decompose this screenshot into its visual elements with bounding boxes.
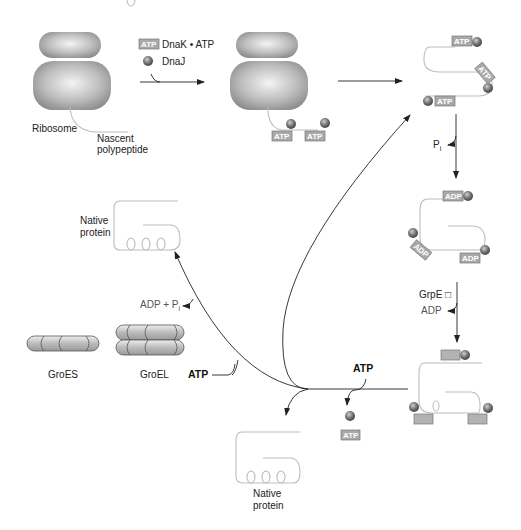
groes-label: GroES (48, 369, 78, 380)
ribosome-label: Ribosome (32, 123, 77, 134)
polypeptide-dnak-atp-complex: ATP ATP ATP (423, 36, 495, 106)
svg-text:ATP: ATP (437, 97, 453, 106)
legend-dnaj-label: DnaJ (162, 56, 185, 67)
atp-right-label: ATP (353, 362, 373, 374)
released-dnaj-sphere (345, 411, 355, 421)
arrow-step1-branch (151, 74, 160, 82)
svg-text:ATP: ATP (343, 431, 359, 440)
svg-text:ADP: ADP (462, 254, 480, 263)
polypeptide-dnak-free-complex (409, 350, 493, 424)
svg-text:ADP: ADP (445, 192, 463, 201)
native-bottom-label-line2: protein (253, 500, 284, 511)
groes-icon (27, 336, 99, 351)
dnak-dnaj-chaperone-pathway-diagram: Ribosome Nascent polypeptide ATP DnaK • … (0, 0, 521, 530)
atp-groel-label: ATP (188, 368, 208, 380)
native-bottom-label-line1: Native (253, 488, 282, 499)
legend-atp-tag: ATP (139, 39, 159, 49)
native-protein-top (114, 0, 180, 250)
nascent-label-line2: polypeptide (97, 144, 149, 155)
nascent-label-line1: Nascent (97, 133, 134, 144)
svg-text:ATP: ATP (454, 37, 470, 46)
released-atp-tag: ATP (341, 430, 360, 440)
arrow-atp-exchange (347, 379, 366, 405)
native-protein-bottom (236, 432, 300, 483)
arrow-rebind-dnak (283, 115, 410, 389)
legend-dnaj-sphere-icon (143, 56, 153, 66)
nascent-polypeptide-strand (70, 108, 128, 132)
groel-icon (116, 325, 184, 355)
native-top-label-line1: Native (80, 215, 109, 226)
grpe-label: GrpE □ (419, 289, 451, 300)
arrow-adp-release (448, 303, 457, 311)
atp-groel-connector (212, 364, 235, 375)
groel-label: GroEL (140, 369, 169, 380)
pi-label: Pi (433, 139, 442, 152)
adp-pi-label: ADP + Pi (140, 299, 180, 312)
polypeptide-dnak-adp-complex: ADP ADP ADP (408, 191, 490, 263)
ribosome-1 (33, 32, 128, 132)
adp-release-label: ADP (421, 305, 442, 316)
arrow-pi-release (448, 136, 456, 145)
legend-dnak-label: DnaK • ATP (162, 39, 215, 50)
native-top-label-line2: protein (80, 227, 111, 238)
ribosome-2: ATP ATP (230, 32, 330, 141)
svg-text:ATP: ATP (307, 132, 323, 141)
svg-text:ATP: ATP (274, 132, 290, 141)
arrow-to-native-bottom (286, 389, 308, 415)
atp-groel-branch (232, 360, 238, 375)
arrow-adp-pi-release (183, 299, 193, 306)
svg-text:ATP: ATP (141, 40, 157, 49)
